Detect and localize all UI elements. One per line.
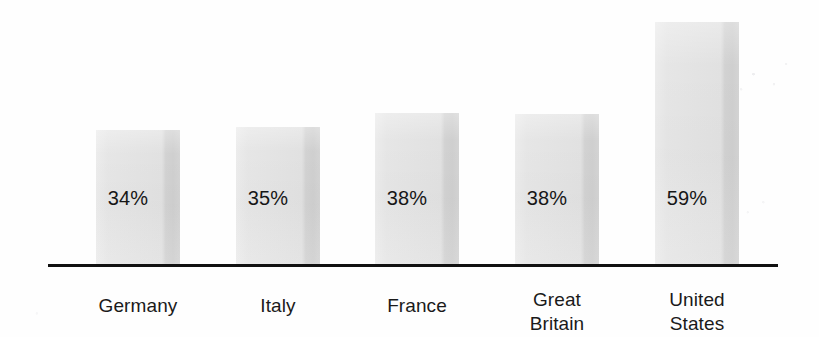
bar-group-germany: 34%	[96, 130, 180, 265]
category-label-line: United	[615, 288, 779, 313]
bar-value-label: 59%	[655, 188, 719, 208]
bar-germany: 34%	[96, 130, 180, 265]
bar-france: 38%	[375, 113, 459, 265]
plot-area: 34% 35% 38% 38% 59%	[0, 0, 819, 337]
bar-value-label: 34%	[96, 188, 160, 208]
bar-value-label: 38%	[515, 188, 579, 208]
bar-great-britain: 38%	[515, 114, 599, 265]
bar-group-france: 38%	[375, 113, 459, 265]
category-label-line: States	[615, 312, 779, 337]
bar-italy: 35%	[236, 127, 320, 265]
bar-united-states: 59%	[655, 22, 739, 265]
bar-chart: 34% 35% 38% 38% 59%	[0, 0, 819, 337]
bar-value-label: 38%	[375, 188, 439, 208]
category-label-united-states: United States	[615, 288, 779, 337]
bar-value-label: 35%	[236, 188, 300, 208]
bar-group-great-britain: 38%	[515, 114, 599, 265]
bar-group-italy: 35%	[236, 127, 320, 265]
bar-group-united-states: 59%	[655, 22, 739, 265]
x-axis-line	[48, 264, 778, 267]
